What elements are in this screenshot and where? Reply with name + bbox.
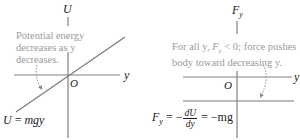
fraction-numerator: dU — [183, 108, 197, 119]
right-equation: Fy = −dUdy = −mg — [152, 108, 233, 129]
right-eq-result: = −mg — [201, 110, 233, 124]
right-annotation-line-1: For all y, Fy < 0; force pushes — [172, 41, 296, 57]
fy-axis-label-sub: y — [239, 10, 243, 19]
potential-energy-force-diagram: U y O Potential energy decreases as y de… — [0, 0, 300, 140]
left-y-axis-label: y — [124, 69, 129, 81]
left-annotation: Potential energy decreases as y decrease… — [16, 30, 84, 66]
right-y-axis-label: y — [294, 71, 299, 83]
fraction-denominator: dy — [183, 119, 197, 129]
right-origin-label: O — [224, 80, 232, 91]
left-eq-equals: = — [15, 113, 22, 127]
right-eq-equals-minus: = − — [166, 110, 183, 124]
u-axis-label: U — [63, 3, 72, 15]
diagram-graphics — [0, 0, 300, 140]
left-eq-rhs: mgy — [24, 113, 44, 127]
left-annotation-line-3: decreases. — [16, 54, 84, 66]
decrease-arrow — [36, 65, 41, 88]
force-direction-arrow — [261, 65, 266, 96]
left-eq-lhs: U — [3, 113, 12, 127]
left-equation: U = mgy — [3, 114, 44, 126]
right-annotation-line-2: body toward decreasing y. — [172, 57, 296, 69]
left-annotation-line-2: decreases as y — [16, 42, 84, 54]
left-annotation-line-1: Potential energy — [16, 30, 84, 42]
right-annotation: For all y, Fy < 0; force pushes body tow… — [172, 41, 296, 69]
derivative-fraction: dUdy — [183, 108, 197, 129]
fy-axis-label: Fy — [232, 4, 243, 19]
right-eq-lhs: Fy — [152, 110, 163, 124]
left-origin-label: O — [70, 78, 78, 89]
